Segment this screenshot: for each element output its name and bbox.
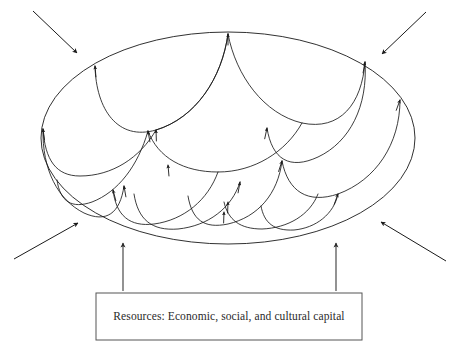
scale-arc-right-lower [261,194,338,230]
scale-arc-upper-mid [156,34,228,130]
arrow-tip-right-low [334,194,338,204]
resource-box [96,293,362,340]
feed-arrows-group [123,243,336,291]
scale-arc-lower-left-outer [43,129,124,217]
bottom-left-external-arrow [14,223,78,259]
top-left-external-arrow [33,11,77,53]
scale-arc-bottom-right-inner [224,194,318,229]
scale-arc-bottom-left [113,172,218,224]
arrow-tip-lower-left [124,186,126,197]
scale-arc-top-left [95,34,228,132]
scale-arc-lower-left-inner [57,131,148,205]
diagram-root: Resources: Economic, social, and cultura… [0,0,458,356]
arrow-tip-center-low [168,165,169,176]
scale-arc-mid-right [267,62,365,163]
arrow-tip-mid-right [265,128,267,139]
diagram-canvas [0,0,458,356]
scale-arc-bottom-mid [134,182,240,229]
bottom-right-external-arrow [381,222,446,261]
scale-arc-right-outer [282,100,400,197]
scale-arc-mid-left [148,123,302,172]
scale-arc-upper-far-left [43,129,156,176]
scale-arc-top-right [228,34,365,124]
top-right-external-arrow [382,12,426,54]
scale-arcs-group [43,34,400,230]
